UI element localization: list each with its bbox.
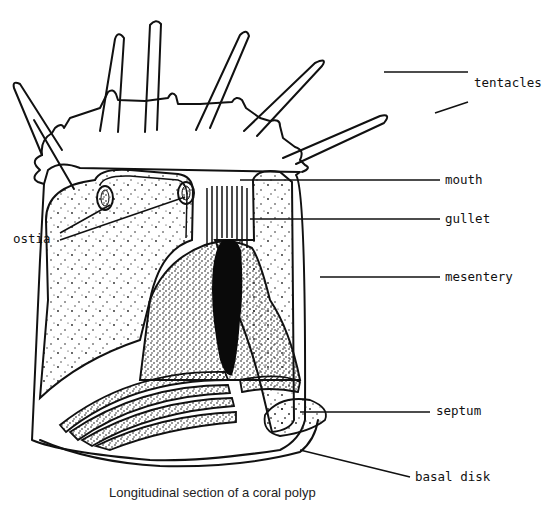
- tentacle: [244, 61, 324, 136]
- tentacles-group: [14, 21, 388, 189]
- label-ostia: ostia: [13, 231, 51, 246]
- tentacle: [283, 115, 387, 164]
- gullet-lines: [207, 186, 247, 248]
- label-gullet: gullet: [445, 211, 490, 226]
- tentacle: [14, 83, 62, 155]
- label-mouth: mouth: [445, 172, 483, 187]
- oral-disc-left-edge: [34, 155, 44, 184]
- oral-disc-outline: [42, 90, 308, 172]
- diagram-caption: Longitudinal section of a coral polyp: [109, 485, 316, 500]
- septum-bands: [60, 372, 300, 450]
- tentacle: [196, 32, 249, 130]
- tentacle: [100, 34, 124, 132]
- label-mesentery: mesentery: [445, 269, 513, 284]
- label-septum: septum: [436, 403, 481, 418]
- coral-polyp-diagram: tentacles mouth gullet ostia mesentery s…: [0, 0, 557, 507]
- tentacle: [145, 21, 161, 132]
- label-tentacles: tentacles: [474, 75, 542, 90]
- label-basal-disk: basal disk: [415, 469, 491, 484]
